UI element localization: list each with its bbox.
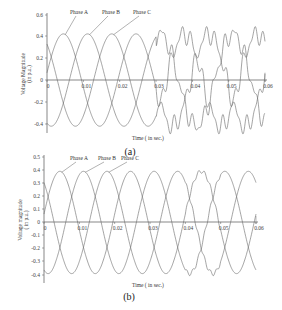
y-tick-label: -0.4	[34, 121, 43, 127]
x-axis-label: Time ( in sec.)	[132, 282, 164, 289]
x-tick-label: 0.06	[254, 225, 264, 231]
svg-text:( in p.u.): ( in p.u.)	[23, 210, 30, 229]
y-axis-label: Voltage Magnitude(in p.u.)	[20, 52, 33, 94]
y-tick-label: 0.6	[36, 12, 43, 18]
annotation-phase-c: Phase C	[133, 9, 151, 15]
x-tick-label: 0.04	[191, 83, 201, 89]
y-tick-label: 0.4	[36, 33, 43, 39]
x-tick-label: 0.06	[263, 83, 273, 89]
x-tick-label: 0	[44, 225, 47, 231]
y-tick-label: 0.4	[33, 167, 40, 173]
y-tick-label: -0.2	[34, 99, 43, 105]
x-tick-label: 0.05	[219, 225, 229, 231]
y-tick-label: -0.3	[31, 258, 40, 264]
annotation-phase-b: Phase B	[102, 9, 120, 15]
annotation-leader	[113, 16, 139, 35]
y-tick-label: 0.3	[33, 180, 40, 186]
y-tick-label: -0.4	[31, 272, 40, 278]
annotation-phase-a: Phase A	[70, 155, 88, 161]
y-tick-label: -0.1	[31, 232, 40, 238]
x-tick-label: 0.04	[184, 225, 194, 231]
x-axis-label: Time ( in sec.)	[132, 135, 164, 142]
annotation-phase-a: Phase A	[70, 9, 88, 15]
figure: 0.60.40.20-0.2-0.400.010.020.030.040.050…	[0, 0, 282, 310]
annotation-leader	[109, 162, 127, 172]
annotation-leader	[85, 162, 104, 172]
chart-a: 0.60.40.20-0.2-0.400.010.020.030.040.050…	[20, 9, 273, 158]
svg-text:(in p.u.): (in p.u.)	[26, 65, 33, 83]
y-tick-label: -0.2	[31, 245, 40, 251]
annotation-leader	[90, 16, 108, 35]
annotation-leader	[65, 16, 76, 35]
y-tick-label: 0	[40, 77, 43, 83]
annotation-phase-b: Phase B	[98, 155, 116, 161]
y-tick-label: 0.1	[33, 206, 40, 212]
y-tick-label: 0.2	[36, 55, 43, 61]
subfigure-label: (b)	[123, 291, 135, 303]
x-tick-label: 0.02	[118, 83, 128, 89]
y-axis-label: Voltage magnitude( in p.u.)	[17, 199, 30, 241]
y-tick-label: 0.5	[33, 154, 40, 160]
y-tick-label: 0.2	[33, 193, 40, 199]
chart-b: 0.50.40.30.20.10-0.1-0.2-0.3-0.400.010.0…	[17, 154, 264, 303]
x-tick-label: 0.02	[113, 225, 123, 231]
y-tick-label: 0	[37, 219, 40, 225]
annotation-phase-c: Phase C	[121, 155, 139, 161]
x-tick-label: 0	[47, 83, 50, 89]
annotation-leader	[62, 162, 76, 172]
